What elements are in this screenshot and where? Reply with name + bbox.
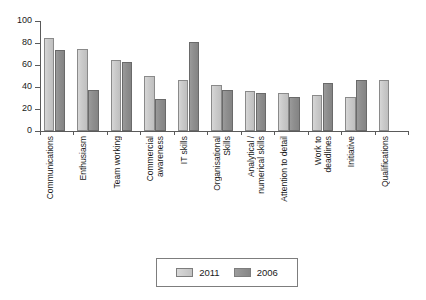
bar-2011-enthusiasm [77, 49, 88, 132]
x-axis-category-line: Enthusiasm [78, 136, 88, 180]
x-axis-category-line: Analytical / [246, 136, 256, 177]
x-axis-category-label: Initiative [346, 136, 356, 231]
bar-group [73, 21, 106, 131]
x-axis-tick [308, 131, 309, 135]
legend-label-2011: 2011 [199, 267, 219, 278]
bar-2011-qualifications [379, 80, 390, 131]
x-axis-tick [241, 131, 242, 135]
x-axis-tick [207, 131, 208, 135]
x-axis-tick [341, 131, 342, 135]
legend-item-2011: 2011 [176, 267, 219, 278]
x-axis-category-label: Qualifications [380, 136, 390, 231]
x-axis-category-line: Communications [45, 136, 55, 199]
x-axis-tick [408, 131, 409, 135]
bar-group [241, 21, 274, 131]
bar-group [174, 21, 207, 131]
bar-2011-analytical-numerical-skills [245, 91, 256, 131]
legend-swatch-2011-icon [176, 268, 193, 277]
bar-2011-initiative [345, 97, 356, 131]
bar-2011-attention-to-detail [278, 93, 289, 132]
x-axis-category-line: numerical skills [256, 136, 266, 194]
bar-group [40, 21, 73, 131]
y-axis-tick-label: 0 [0, 126, 32, 135]
chart-legend: 2011 2006 [156, 258, 298, 287]
x-axis-tick [274, 131, 275, 135]
x-axis-tick [140, 131, 141, 135]
bar-2011-communications [44, 38, 55, 132]
x-axis-category-label: Team working [112, 136, 122, 231]
x-axis-tick [73, 131, 74, 135]
legend-label-2006: 2006 [257, 267, 278, 278]
x-axis-line [40, 131, 409, 132]
y-axis-tick-label: 100 [0, 16, 32, 25]
x-axis-category-label: Work todeadlines [313, 136, 333, 231]
bar-2011-commercial-awareness [144, 76, 155, 131]
x-axis-category-label: Communications [45, 136, 55, 231]
bar-group [308, 21, 341, 131]
bar-group [274, 21, 307, 131]
x-axis-category-line: Team working [112, 136, 122, 188]
x-axis-category-line: deadlines [323, 136, 333, 172]
bar-2006-organisational-skills [222, 90, 233, 131]
y-axis-tick-label: 80 [0, 38, 32, 47]
bar-2011-team-working [111, 60, 122, 132]
bar-2011-work-to-deadlines [312, 95, 323, 131]
bar-group [341, 21, 374, 131]
bar-2011-it-skills [178, 80, 189, 131]
y-axis-tick-label: 20 [0, 104, 32, 113]
x-axis-category-label: Enthusiasm [78, 136, 88, 231]
x-axis-category-line: Attention to detail [279, 136, 289, 202]
x-axis-category-label: Attention to detail [279, 136, 289, 231]
bar-2006-commercial-awareness [155, 99, 166, 131]
x-axis-tick [40, 131, 41, 135]
x-axis-category-line: Qualifications [380, 136, 390, 187]
bar-2011-organisational-skills [211, 85, 222, 131]
bar-2006-enthusiasm [88, 90, 99, 131]
bar-2006-it-skills [189, 42, 200, 131]
legend-swatch-2006-icon [234, 268, 251, 277]
plot-area [40, 21, 408, 131]
x-axis-tick [174, 131, 175, 135]
bar-chart-figure: 020406080100 CommunicationsEnthusiasmTea… [0, 0, 426, 300]
x-axis-tick [107, 131, 108, 135]
x-axis-category-label: Analytical /numerical skills [246, 136, 266, 231]
x-axis-category-line: Skills [222, 136, 232, 156]
y-axis-tick-label: 40 [0, 82, 32, 91]
x-axis-category-line: Initiative [346, 136, 356, 167]
bar-group [375, 21, 408, 131]
x-axis-category-line: Commercial [145, 136, 155, 181]
y-axis-tick-label: 60 [0, 60, 32, 69]
x-axis-category-label: OrganisationalSkills [212, 136, 232, 231]
x-axis-category-line: awareness [155, 136, 165, 177]
x-axis-category-line: IT skills [179, 136, 189, 164]
bar-group [107, 21, 140, 131]
bar-2006-work-to-deadlines [323, 83, 334, 131]
bar-group [140, 21, 173, 131]
bar-2006-attention-to-detail [289, 97, 300, 131]
x-axis-category-line: Organisational [212, 136, 222, 191]
bar-group [207, 21, 240, 131]
bar-2006-team-working [122, 62, 133, 131]
x-axis-category-label: Commercialawareness [145, 136, 165, 231]
bar-2006-communications [55, 50, 66, 131]
x-axis-category-line: Work to [313, 136, 323, 165]
legend-item-2006: 2006 [234, 267, 278, 278]
x-axis-category-label: IT skills [179, 136, 189, 231]
bar-2006-initiative [356, 80, 367, 131]
bar-2006-analytical-numerical-skills [256, 93, 267, 132]
x-axis-tick [375, 131, 376, 135]
